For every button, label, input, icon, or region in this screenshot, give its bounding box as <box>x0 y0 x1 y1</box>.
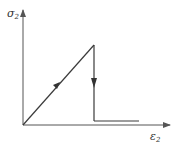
x-axis-label: ε2 <box>150 130 161 144</box>
loading-direction-arrow-icon <box>53 82 60 89</box>
drop-direction-arrow-icon <box>91 78 97 88</box>
y-axis-label: σ2 <box>7 7 20 21</box>
x-axis-subscript: 2 <box>155 136 161 144</box>
stress-strain-diagram: σ2 ε2 <box>0 0 180 150</box>
y-axis-subscript: 2 <box>14 13 20 21</box>
